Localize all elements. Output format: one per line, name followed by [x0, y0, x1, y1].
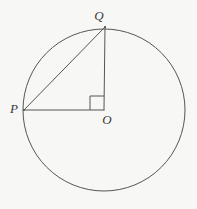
diagram-canvas: Q P O: [0, 0, 197, 209]
segment-qo: [104, 27, 105, 110]
geometry-figure: Q P O: [0, 0, 197, 209]
vertex-point-p: [23, 109, 25, 111]
label-q: Q: [94, 8, 104, 23]
label-p: P: [9, 101, 18, 116]
vertex-point-q: [104, 26, 106, 28]
right-angle-marker-icon: [90, 96, 104, 110]
label-o: O: [102, 112, 112, 127]
